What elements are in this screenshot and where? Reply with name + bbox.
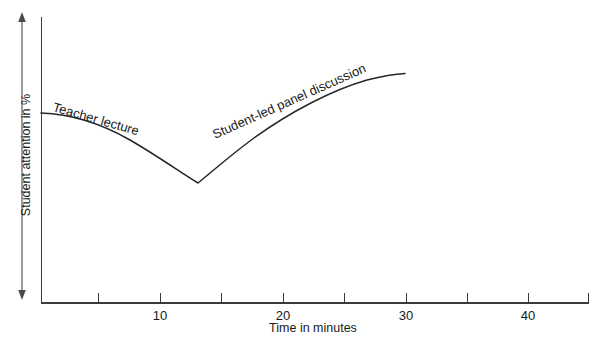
x-tick-label-30: 30 — [399, 308, 413, 323]
y-axis-title: Student attention in % — [19, 94, 33, 216]
x-tick-label-40: 40 — [521, 308, 535, 323]
x-tick-label-10: 10 — [153, 308, 167, 323]
x-axis-ticks — [99, 293, 589, 303]
x-axis-title: Time in minutes — [269, 321, 357, 335]
attention-chart-figure: 10 20 30 40 Time in minutes Student atte… — [0, 0, 613, 345]
chart-canvas: 10 20 30 40 Time in minutes Student atte… — [0, 0, 613, 345]
annotation-teacher-lecture: Teacher lecture — [51, 99, 141, 138]
annotation-student-led-panel-discussion: Student-led panel discussion — [210, 60, 368, 141]
